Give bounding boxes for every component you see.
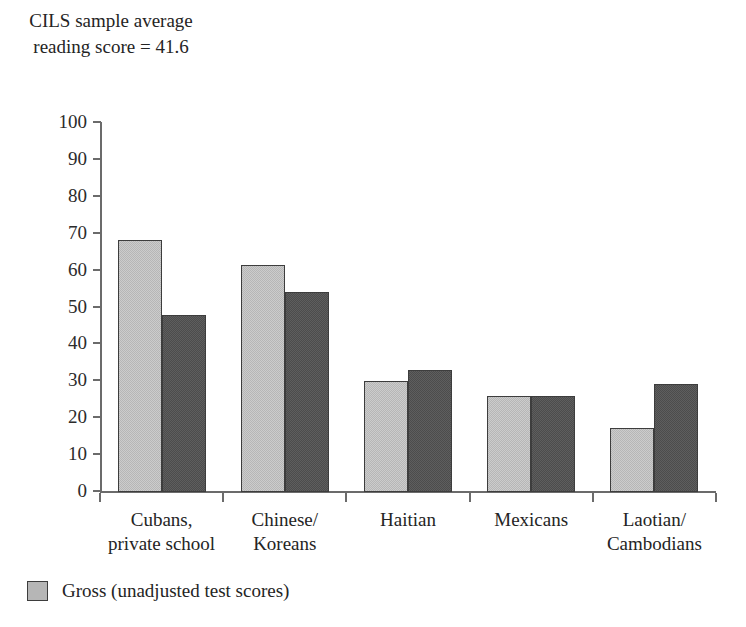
x-tick-mark <box>345 493 347 502</box>
legend-label: Gross (unadjusted test scores) <box>62 578 289 603</box>
chart-plot-area: 0102030405060708090100 Cubans, private s… <box>0 0 746 627</box>
bar-adjusted <box>654 384 698 492</box>
bar-gross <box>487 396 531 492</box>
bar-gross <box>118 240 162 492</box>
x-tick-mark <box>469 493 471 502</box>
bar-gross <box>241 265 285 492</box>
x-category-label: Laotian/ Cambodians <box>564 508 744 556</box>
bar-gross <box>610 428 654 492</box>
bars-layer <box>0 122 746 492</box>
bar-adjusted <box>162 315 206 492</box>
bar-adjusted <box>531 396 575 492</box>
x-tick-mark <box>222 493 224 502</box>
x-tick-mark <box>99 493 101 502</box>
chart-legend: Gross (unadjusted test scores) <box>27 578 289 603</box>
bar-adjusted <box>408 370 452 492</box>
x-tick-mark <box>592 493 594 502</box>
bar-adjusted <box>285 292 329 492</box>
bar-gross <box>364 381 408 492</box>
legend-swatch-icon <box>27 581 48 601</box>
x-tick-mark <box>715 493 717 502</box>
legend-item: Gross (unadjusted test scores) <box>27 578 289 603</box>
